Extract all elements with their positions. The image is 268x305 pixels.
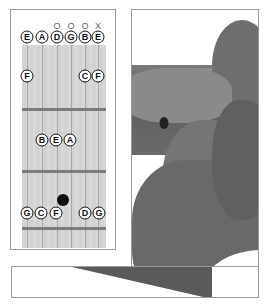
note-fret3-g-high: G: [93, 207, 106, 220]
muted-string-marker: X: [95, 22, 101, 31]
fret-wire-2: [22, 170, 106, 173]
note-fret3-c: C: [35, 207, 48, 220]
hand-shadow-image: [72, 267, 212, 298]
note-fret1-f-high: F: [92, 70, 105, 83]
string-4: [71, 45, 72, 248]
note-fret3-d: D: [79, 207, 92, 220]
note-fret1-c: C: [79, 70, 92, 83]
index-finger-image: [131, 68, 232, 123]
note-open-e-high: E: [92, 31, 105, 44]
fret-wire-3: [22, 227, 106, 230]
note-fret2-b: B: [36, 134, 49, 147]
note-open-g: G: [65, 31, 78, 44]
knuckle-image: [212, 100, 259, 220]
finger-position-dot: [57, 194, 69, 206]
note-fret1-f-low: F: [21, 70, 34, 83]
hand-photo-panel: [131, 9, 259, 297]
fret-wire-1: [22, 108, 106, 111]
note-open-e-low: E: [21, 31, 34, 44]
note-fret3-g-low: G: [21, 207, 34, 220]
bottom-panel: [11, 266, 259, 298]
fret-shadow-image: [160, 117, 169, 129]
open-string-marker: O: [67, 22, 74, 31]
note-fret3-f: F: [50, 207, 63, 220]
note-fret2-e: E: [50, 134, 63, 147]
open-string-marker: O: [81, 22, 88, 31]
note-open-a: A: [36, 31, 49, 44]
note-open-d: D: [51, 31, 64, 44]
open-string-marker: O: [53, 22, 60, 31]
note-fret2-a: A: [64, 134, 77, 147]
note-open-b: B: [79, 31, 92, 44]
